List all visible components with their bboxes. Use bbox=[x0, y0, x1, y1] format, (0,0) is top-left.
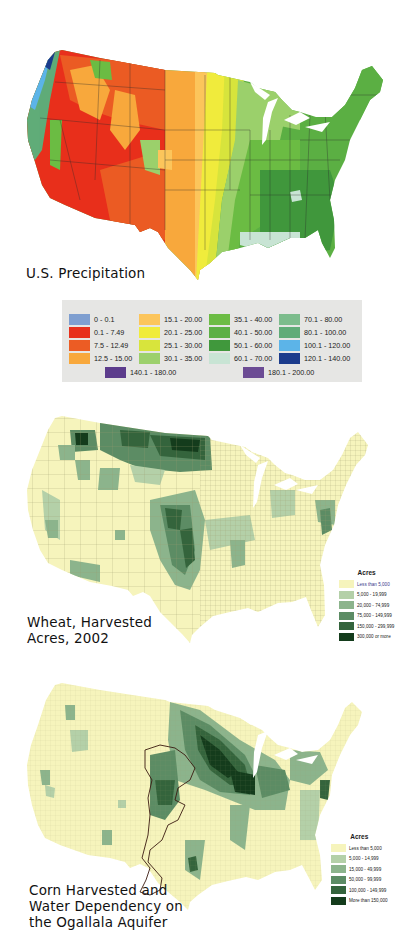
legend-swatch bbox=[279, 353, 300, 364]
legend-item: 40.1 - 50.00 bbox=[209, 326, 272, 338]
legend-label: 20,000 - 74,999 bbox=[357, 603, 389, 608]
legend-item: 140.1 - 180.00 bbox=[105, 366, 176, 378]
legend-swatch bbox=[279, 327, 300, 338]
legend-label: 100,000 - 149,999 bbox=[349, 888, 386, 893]
legend-label: Less than 5,000 bbox=[349, 846, 382, 851]
legend-label: 7.5 - 12.49 bbox=[94, 341, 128, 350]
legend-swatch bbox=[139, 314, 160, 325]
wheat-caption-line2: Acres, 2002 bbox=[27, 630, 152, 646]
legend-label: 80.1 - 100.00 bbox=[304, 328, 346, 337]
legend-label: 300,000 or more bbox=[357, 634, 391, 639]
legend-label: 30.1 - 35.00 bbox=[164, 354, 202, 363]
legend-item: 5,000 - 14,999 bbox=[331, 854, 388, 865]
wheat-legend: Acres Less than 5,000 5,000 - 19,999 20,… bbox=[339, 569, 394, 642]
wheat-caption-line1: Wheat, Harvested bbox=[27, 614, 152, 630]
legend-swatch bbox=[331, 865, 346, 873]
legend-item: 20.1 - 25.00 bbox=[139, 326, 202, 338]
legend-item: More than 150,000 bbox=[331, 896, 388, 907]
corn-panel: Corn Harvested and Water Dependency on t… bbox=[0, 680, 420, 931]
legend-item: 15,000 - 49,999 bbox=[331, 864, 388, 875]
corn-legend-title: Acres bbox=[331, 833, 388, 840]
legend-item: 0.1 - 7.49 bbox=[69, 326, 124, 338]
precipitation-legend: 0 - 0.1 0.1 - 7.49 7.5 - 12.49 12.5 - 15… bbox=[62, 300, 362, 382]
legend-swatch bbox=[339, 601, 354, 609]
legend-swatch bbox=[69, 327, 90, 338]
legend-item: 100.1 - 120.00 bbox=[279, 339, 350, 351]
legend-swatch bbox=[339, 633, 354, 641]
legend-label: 120.1 - 140.00 bbox=[304, 354, 350, 363]
legend-swatch bbox=[105, 367, 126, 378]
legend-swatch bbox=[331, 886, 346, 894]
legend-label: 100.1 - 120.00 bbox=[304, 341, 350, 350]
legend-item: 30.1 - 35.00 bbox=[139, 352, 202, 364]
legend-item: 25.1 - 30.00 bbox=[139, 339, 202, 351]
legend-label: 15,000 - 49,999 bbox=[349, 867, 381, 872]
legend-item: 180.1 - 200.00 bbox=[243, 366, 314, 378]
legend-label: Less than 5,000 bbox=[357, 582, 390, 587]
legend-label: 0.1 - 7.49 bbox=[94, 328, 124, 337]
legend-swatch bbox=[279, 340, 300, 351]
legend-label: 12.5 - 15.00 bbox=[94, 354, 132, 363]
legend-item: 50.1 - 60.00 bbox=[209, 339, 272, 351]
legend-label: 70.1 - 80.00 bbox=[304, 315, 342, 324]
legend-label: More than 150,000 bbox=[349, 898, 388, 903]
legend-swatch bbox=[139, 353, 160, 364]
legend-swatch bbox=[339, 622, 354, 630]
corn-legend: Acres Less than 5,000 5,000 - 14,999 15,… bbox=[331, 833, 388, 906]
legend-label: 180.1 - 200.00 bbox=[268, 368, 314, 377]
legend-swatch bbox=[69, 353, 90, 364]
legend-item: Less than 5,000 bbox=[331, 843, 388, 854]
legend-item: 300,000 or more bbox=[339, 632, 394, 643]
legend-item: 80.1 - 100.00 bbox=[279, 326, 346, 338]
legend-item: 60.1 - 70.00 bbox=[209, 352, 272, 364]
legend-swatch bbox=[139, 340, 160, 351]
legend-label: 15.1 - 20.00 bbox=[164, 315, 202, 324]
precipitation-map bbox=[0, 0, 420, 300]
legend-label: 140.1 - 180.00 bbox=[130, 368, 176, 377]
legend-item: Less than 5,000 bbox=[339, 579, 394, 590]
legend-label: 60.1 - 70.00 bbox=[234, 354, 272, 363]
precipitation-caption: U.S. Precipitation bbox=[26, 265, 145, 281]
legend-label: 50.1 - 60.00 bbox=[234, 341, 272, 350]
legend-item: 50,000 - 99,999 bbox=[331, 875, 388, 886]
legend-swatch bbox=[339, 580, 354, 588]
legend-label: 150,000 - 299,999 bbox=[357, 624, 394, 629]
legend-swatch bbox=[331, 897, 346, 905]
legend-item: 35.1 - 40.00 bbox=[209, 313, 272, 325]
wheat-caption: Wheat, Harvested Acres, 2002 bbox=[27, 614, 152, 646]
legend-swatch bbox=[339, 612, 354, 620]
legend-swatch bbox=[69, 340, 90, 351]
legend-label: 50,000 - 99,999 bbox=[349, 877, 381, 882]
legend-item: 5,000 - 19,999 bbox=[339, 590, 394, 601]
wheat-panel: Wheat, Harvested Acres, 2002 Acres Less … bbox=[0, 390, 420, 680]
legend-label: 35.1 - 40.00 bbox=[234, 315, 272, 324]
legend-item: 7.5 - 12.49 bbox=[69, 339, 128, 351]
legend-swatch bbox=[69, 314, 90, 325]
legend-item: 20,000 - 74,999 bbox=[339, 600, 394, 611]
corn-caption-line2: Water Dependency on bbox=[29, 898, 183, 914]
legend-item: 150,000 - 299,999 bbox=[339, 621, 394, 632]
legend-swatch bbox=[331, 876, 346, 884]
corn-caption-line3: the Ogallala Aquifer bbox=[29, 914, 183, 930]
corn-caption-line1: Corn Harvested and bbox=[29, 882, 183, 898]
legend-item: 120.1 - 140.00 bbox=[279, 352, 350, 364]
legend-swatch bbox=[339, 591, 354, 599]
precipitation-panel: U.S. Precipitation 0 - 0.1 0.1 - 7.49 7.… bbox=[0, 0, 420, 390]
corn-caption-text: Corn Harvested and Water Dependency on t… bbox=[29, 882, 183, 930]
legend-swatch bbox=[209, 353, 230, 364]
legend-item: 0 - 0.1 bbox=[69, 313, 114, 325]
legend-swatch bbox=[209, 327, 230, 338]
legend-item: 70.1 - 80.00 bbox=[279, 313, 342, 325]
legend-label: 40.1 - 50.00 bbox=[234, 328, 272, 337]
legend-label: 0 - 0.1 bbox=[94, 315, 114, 324]
legend-item: 75,000 - 149,999 bbox=[339, 611, 394, 622]
legend-swatch bbox=[243, 367, 264, 378]
legend-item: 12.5 - 15.00 bbox=[69, 352, 132, 364]
legend-swatch bbox=[139, 327, 160, 338]
legend-swatch bbox=[279, 314, 300, 325]
legend-label: 20.1 - 25.00 bbox=[164, 328, 202, 337]
legend-label: 5,000 - 19,999 bbox=[357, 592, 387, 597]
legend-swatch bbox=[209, 314, 230, 325]
legend-label: 5,000 - 14,999 bbox=[349, 856, 379, 861]
legend-item: 100,000 - 149,999 bbox=[331, 885, 388, 896]
